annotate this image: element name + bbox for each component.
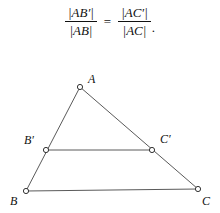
vertex-marker-C bbox=[195, 186, 200, 191]
trailing-period: . bbox=[152, 20, 155, 36]
segment-AB bbox=[26, 87, 80, 191]
vertex-marker-B bbox=[23, 188, 28, 193]
equals-sign: = bbox=[104, 14, 111, 30]
left-fraction-denominator: |AB| bbox=[66, 22, 95, 37]
segment-AC bbox=[80, 87, 198, 189]
vertex-marker-group bbox=[23, 84, 200, 193]
vertex-marker-Cp bbox=[149, 147, 154, 152]
right-fraction-numerator: |AC′| bbox=[118, 6, 151, 21]
proportion-equation: |AB′| |AB| = |AC′| |AC| . bbox=[65, 6, 155, 37]
left-fraction-numerator: |AB′| bbox=[65, 6, 97, 21]
figure-container: |AB′| |AB| = |AC′| |AC| . AB′C′BC bbox=[0, 0, 220, 213]
segment-group bbox=[26, 87, 198, 191]
vertex-label-C: C bbox=[202, 195, 210, 207]
triangle-diagram: AB′C′BC bbox=[0, 55, 220, 213]
left-fraction: |AB′| |AB| bbox=[65, 6, 97, 37]
vertex-marker-A bbox=[77, 84, 82, 89]
vertex-label-B: B bbox=[10, 195, 17, 207]
vertex-label-Cp: C′ bbox=[160, 133, 171, 145]
vertex-label-Bp: B′ bbox=[24, 134, 34, 146]
segment-BC bbox=[26, 189, 198, 191]
vertex-label-A: A bbox=[88, 73, 95, 85]
vertex-marker-Bp bbox=[43, 147, 48, 152]
right-fraction-denominator: |AC| bbox=[120, 22, 150, 37]
formula-block: |AB′| |AB| = |AC′| |AC| . bbox=[0, 6, 220, 37]
right-fraction: |AC′| |AC| bbox=[118, 6, 151, 37]
